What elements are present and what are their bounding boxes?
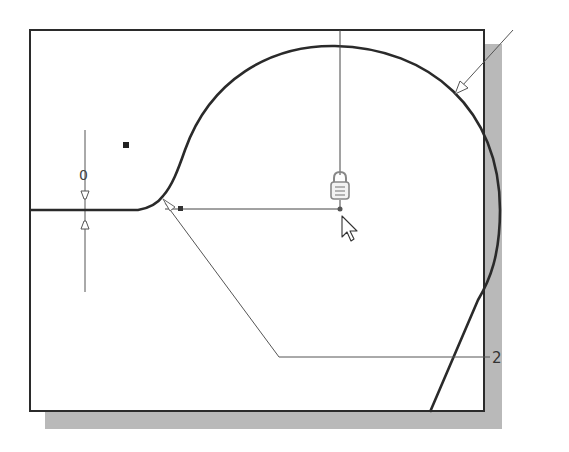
tangent-constraint-icon	[455, 81, 468, 94]
arc-center-point[interactable]	[338, 207, 343, 212]
origin-label: 0	[79, 167, 88, 183]
lock-icon	[331, 172, 349, 199]
dimension-label[interactable]: 2	[492, 349, 502, 367]
point-marker-icon	[123, 142, 129, 148]
endpoint-marker-icon	[178, 206, 183, 211]
tangent-pointer-line	[462, 30, 513, 86]
cursor-arrow-icon	[342, 216, 357, 241]
dimension-leader-line	[165, 203, 490, 357]
cad-sketch-figure: 0 2	[0, 0, 569, 452]
sketch-canvas: 0 2	[0, 0, 569, 452]
